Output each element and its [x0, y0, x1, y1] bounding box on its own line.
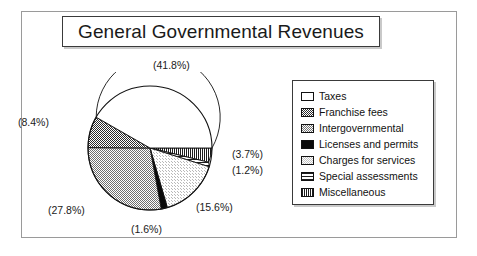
legend-item-intergovernmental: Intergovernmental: [301, 120, 433, 136]
legend-swatch-taxes-icon: [301, 92, 314, 101]
legend-item-franchise-fees: Franchise fees: [301, 104, 433, 120]
legend-swatch-miscellaneous-icon: [301, 188, 314, 197]
pie-slice-intergovernmental: [88, 148, 161, 210]
legend-item-charges-for-services: Charges for services: [301, 152, 433, 168]
legend-label-special-assessments: Special assessments: [319, 171, 418, 182]
legend-swatch-franchise-fees-icon: [301, 108, 314, 117]
legend-label-charges-for-services: Charges for services: [319, 155, 415, 166]
page-title: General Governmental Revenues: [63, 17, 379, 46]
legend-item-special-assessments: Special assessments: [301, 168, 433, 184]
pie-label-taxes: (41.8%): [153, 59, 190, 71]
pie-label-miscellaneous: (3.7%): [232, 148, 263, 160]
chart-title-box: General Governmental Revenues: [62, 16, 380, 47]
pie-label-charges-for-services: (15.6%): [196, 201, 233, 213]
legend-swatch-intergovernmental-icon: [301, 124, 314, 133]
legend-item-licenses-and-permits: Licenses and permits: [301, 136, 433, 152]
pie-label-franchise-fees: (8.4%): [18, 116, 49, 128]
legend-swatch-charges-for-services-icon: [301, 156, 314, 165]
legend-label-licenses-and-permits: Licenses and permits: [319, 139, 418, 150]
legend-item-taxes: Taxes: [301, 88, 433, 104]
chart-legend: Taxes Franchise fees Intergovernmental L…: [292, 80, 434, 205]
legend-label-franchise-fees: Franchise fees: [319, 107, 388, 118]
legend-label-miscellaneous: Miscellaneous: [319, 187, 386, 198]
legend-item-miscellaneous: Miscellaneous: [301, 184, 433, 200]
legend-swatch-special-assessments-icon: [301, 172, 314, 181]
legend-label-intergovernmental: Intergovernmental: [319, 123, 404, 134]
pie-label-intergovernmental: (27.8%): [48, 204, 85, 216]
pie-label-licenses-and-permits: (1.6%): [131, 223, 162, 235]
legend-swatch-licenses-and-permits-icon: [301, 140, 314, 149]
legend-label-taxes: Taxes: [319, 91, 346, 102]
pie-label-special-assessments: (1.2%): [232, 164, 263, 176]
